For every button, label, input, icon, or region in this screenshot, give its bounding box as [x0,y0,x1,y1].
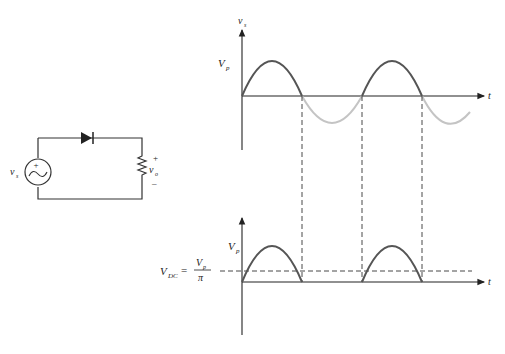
resistor-icon [138,153,146,177]
dc-sub: DC [167,272,178,280]
output-plot: t V p V DC = V p π [160,218,491,335]
y-axis-label: v [238,15,243,26]
dc-equals: = [181,264,187,276]
input-plot: v s V p t [218,15,491,150]
source-plus: + [33,160,38,170]
output-sub: o [155,171,158,177]
diode-icon [81,132,93,144]
positive-half-wave [242,61,422,96]
half-wave-rectifier-diagram: + v s + v o – v s V p t t V p [0,0,505,354]
circuit-wires [38,138,142,199]
peak-label: V [218,57,226,69]
peak-sub: p [225,64,230,72]
period-markers [302,96,422,282]
peak-label: V [228,240,236,252]
rectified-wave [242,246,422,282]
source-label: v [10,166,15,177]
circuit: + v s + v o – [10,132,158,199]
x-axis-label: t [488,90,491,101]
peak-sub: p [235,247,240,255]
output-label: v [149,164,154,175]
source-sub: s [16,173,19,179]
y-axis-sub: s [244,22,247,28]
dc-label: V [160,265,168,277]
dc-denominator: π [198,272,204,283]
output-plus: + [153,153,158,163]
dc-numerator-sub: p [202,264,206,270]
negative-half-wave [302,96,470,124]
x-axis-label: t [488,276,491,287]
output-minus: – [151,178,157,188]
